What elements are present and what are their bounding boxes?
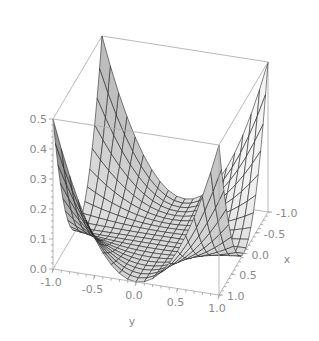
z-tick-label: 0.2	[30, 203, 48, 216]
z-tick-label: 0.4	[30, 143, 48, 156]
y-tick-label: -1.0	[40, 276, 61, 289]
box-edge	[102, 36, 268, 62]
surface-mesh	[53, 36, 268, 282]
surface-plot: 0.00.10.20.30.40.5 -1.0-0.50.00.51.0 -1.…	[0, 0, 319, 341]
y-tick-label: 1.0	[208, 302, 226, 315]
x-axis-label: x	[284, 253, 291, 266]
box-edge	[53, 36, 102, 119]
y-axis-label: y	[129, 315, 136, 328]
z-tick-label: 0.5	[30, 113, 48, 126]
z-tick-label: 0.1	[30, 233, 48, 246]
y-tick-label: -0.5	[82, 283, 103, 296]
x-tick-label: 0.0	[252, 249, 270, 262]
x-tick-label: 1.0	[227, 290, 245, 303]
x-tick-label: -1.0	[276, 207, 297, 220]
z-tick-label: 0.0	[30, 263, 48, 276]
y-tick-label: 0.5	[167, 296, 185, 309]
y-tick-label: 0.0	[125, 289, 143, 302]
x-tick-label: -0.5	[264, 228, 285, 241]
z-axis: 0.00.10.20.30.40.5	[30, 113, 54, 276]
z-tick-label: 0.3	[30, 173, 48, 186]
x-tick-label: 0.5	[239, 269, 257, 282]
